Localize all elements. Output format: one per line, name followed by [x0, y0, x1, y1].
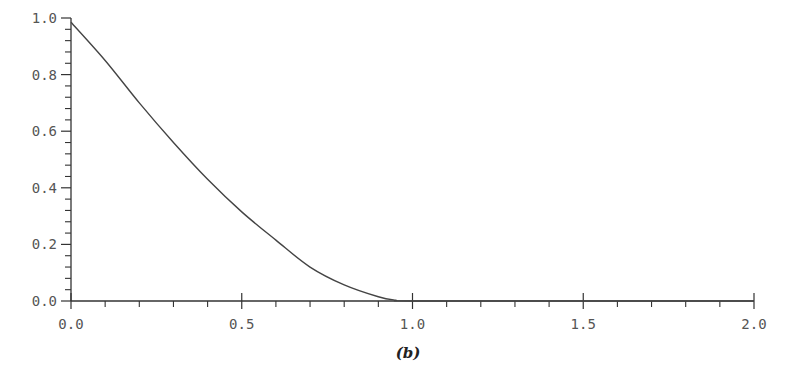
- y-tick-label: 0.6: [32, 123, 57, 139]
- plot-area: [71, 22, 754, 301]
- x-tick-label: 1.0: [400, 316, 425, 332]
- line-chart: 0.00.51.01.52.00.00.20.40.60.81.0 (b): [0, 0, 787, 389]
- figure-caption: (b): [396, 344, 421, 362]
- y-tick-label: 0.2: [32, 236, 57, 252]
- y-tick-label: 0.0: [32, 293, 57, 309]
- x-tick-label: 0.0: [58, 316, 83, 332]
- x-tick-label: 1.5: [571, 316, 596, 332]
- axes: 0.00.51.01.52.00.00.20.40.60.81.0: [32, 10, 767, 332]
- y-tick-label: 1.0: [32, 10, 57, 26]
- x-tick-label: 2.0: [741, 316, 766, 332]
- x-tick-label: 0.5: [229, 316, 254, 332]
- y-tick-label: 0.4: [32, 180, 57, 196]
- y-tick-label: 0.8: [32, 67, 57, 83]
- data-line: [71, 22, 754, 301]
